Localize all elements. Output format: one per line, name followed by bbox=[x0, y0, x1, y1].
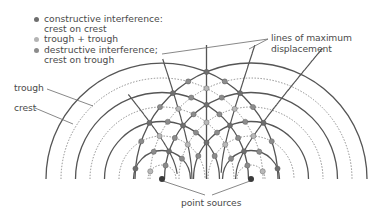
crest-trough-point bbox=[186, 79, 191, 84]
legend-label: crest on trough bbox=[44, 55, 163, 65]
max-displacement-line bbox=[163, 59, 192, 179]
crest-trough-point bbox=[189, 95, 194, 100]
trough-trough-point bbox=[260, 169, 265, 174]
trough-trough-point bbox=[204, 120, 209, 125]
crest-trough-point bbox=[243, 119, 248, 124]
crest-trough-point bbox=[257, 149, 262, 154]
legend-item-constructive: constructive interference: crest on cres… bbox=[34, 14, 163, 34]
crest-trough-point bbox=[236, 135, 241, 140]
crest-crest-point bbox=[204, 102, 209, 107]
crest-trough-point bbox=[165, 119, 170, 124]
max-displacement-label-line1: lines of maximum bbox=[271, 33, 352, 44]
crest-trough-point bbox=[269, 139, 274, 144]
crest-trough-point bbox=[219, 95, 224, 100]
trough-trough-dot-icon bbox=[34, 37, 39, 42]
legend: constructive interference: crest on cres… bbox=[34, 14, 163, 65]
point-source-dot bbox=[159, 176, 165, 182]
trough-trough-point bbox=[223, 142, 228, 147]
crest-trough-point bbox=[214, 130, 219, 135]
crest-trough-point bbox=[222, 79, 227, 84]
trough-label: trough bbox=[14, 83, 44, 94]
crest-trough-point bbox=[228, 156, 233, 161]
crest-crest-point bbox=[204, 140, 209, 145]
leader-line bbox=[35, 108, 73, 124]
crest-trough-dot-icon bbox=[34, 48, 39, 53]
trough-trough-point bbox=[232, 106, 237, 111]
crest-trough-point bbox=[250, 104, 255, 109]
trough-trough-point bbox=[148, 169, 153, 174]
crest-trough-point bbox=[191, 112, 196, 117]
crest-label: crest bbox=[14, 103, 36, 114]
trough-trough-point bbox=[185, 142, 190, 147]
crest-trough-point bbox=[212, 153, 217, 158]
lines-of-maximum-displacement bbox=[128, 45, 322, 179]
point-source-dot bbox=[248, 176, 254, 182]
point-sources-label: point sources bbox=[181, 198, 241, 209]
crest-crest-point bbox=[204, 69, 209, 74]
crest-trough-point bbox=[139, 139, 144, 144]
crest-crest-dot-icon bbox=[34, 17, 39, 22]
crest-trough-point bbox=[245, 163, 250, 168]
crest-trough-point bbox=[172, 135, 177, 140]
crest-crest-point bbox=[170, 91, 175, 96]
trough-trough-point bbox=[204, 86, 209, 91]
crest-crest-point bbox=[241, 149, 246, 154]
crest-trough-point bbox=[179, 156, 184, 161]
trough-trough-point bbox=[251, 133, 256, 138]
crest-crest-point bbox=[147, 120, 152, 125]
leader-line bbox=[212, 181, 250, 195]
max-displacement-line bbox=[236, 48, 323, 179]
crest-crest-point bbox=[166, 149, 171, 154]
crest-trough-point bbox=[163, 163, 168, 168]
crest-trough-point bbox=[217, 112, 222, 117]
crest-trough-point bbox=[151, 149, 156, 154]
crest-crest-point bbox=[275, 166, 280, 171]
crest-crest-point bbox=[261, 120, 266, 125]
trough-trough-point bbox=[157, 133, 162, 138]
crest-crest-point bbox=[237, 91, 242, 96]
leader-line bbox=[163, 181, 205, 195]
legend-item-destructive: destructive interference; crest on troug… bbox=[34, 45, 163, 65]
crest-trough-point bbox=[193, 130, 198, 135]
trough-trough-point bbox=[176, 106, 181, 111]
crest-crest-point bbox=[133, 166, 138, 171]
crest-trough-point bbox=[196, 153, 201, 158]
max-displacement-label-line2: displacement bbox=[271, 44, 332, 55]
crest-trough-point bbox=[157, 104, 162, 109]
crest-crest-point bbox=[180, 123, 185, 128]
crest-crest-point bbox=[227, 123, 232, 128]
